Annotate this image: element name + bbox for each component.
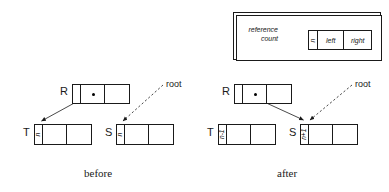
legend-node-box: n left right xyxy=(308,30,372,50)
legend-cell-reference-count: n xyxy=(309,31,318,49)
before-r-cell-count xyxy=(73,85,81,103)
after-s-cell-count: n+1 xyxy=(301,125,309,144)
before-node-r xyxy=(72,84,130,104)
before-caption: before xyxy=(84,168,112,179)
after-t-count-value: n-1 xyxy=(219,130,226,139)
before-node-label-s: S xyxy=(105,127,112,138)
before-r-cell-left xyxy=(81,85,105,103)
before-node-label-t: T xyxy=(23,127,30,138)
after-node-t: n-1 xyxy=(218,124,276,145)
legend-caption: reference count xyxy=(238,26,278,44)
after-root-label: root xyxy=(355,80,371,89)
before-t-cell-left xyxy=(43,125,67,144)
after-node-r xyxy=(234,84,292,104)
before-r-cell-right xyxy=(105,85,129,103)
before-root-label: root xyxy=(166,80,182,89)
legend-caption-line-2: count xyxy=(238,35,278,44)
before-r-pointer-dot xyxy=(92,93,95,96)
diagram-canvas: reference count n left right R root T n … xyxy=(0,0,389,192)
legend-cell-right: right xyxy=(344,31,371,49)
before-node-label-r: R xyxy=(60,86,68,97)
before-s-cell-left xyxy=(125,125,149,144)
before-s-cell-count: n xyxy=(117,125,125,144)
before-node-t: n xyxy=(34,124,92,145)
after-r-cell-count xyxy=(235,85,243,103)
after-s-cell-right xyxy=(333,125,357,144)
after-node-label-s: S xyxy=(289,127,296,138)
before-t-cell-right xyxy=(67,125,91,144)
legend-caption-line-1: reference xyxy=(238,26,278,35)
after-r-pointer-dot xyxy=(254,93,257,96)
after-t-cell-left xyxy=(227,125,251,144)
after-t-cell-count: n-1 xyxy=(219,125,227,144)
before-s-cell-right xyxy=(149,125,173,144)
before-node-s: n xyxy=(116,124,174,145)
after-node-label-t: T xyxy=(207,127,214,138)
after-r-cell-left xyxy=(243,85,267,103)
legend-cell-left: left xyxy=(318,31,345,49)
legend-count-value: n xyxy=(309,38,316,42)
after-s-cell-left xyxy=(309,125,333,144)
after-caption: after xyxy=(277,168,297,179)
before-t-cell-count: n xyxy=(35,125,43,144)
after-r-cell-right xyxy=(267,85,291,103)
after-t-cell-right xyxy=(251,125,275,144)
after-root-arrow xyxy=(310,85,352,120)
after-node-label-r: R xyxy=(222,86,230,97)
after-node-s: n+1 xyxy=(300,124,358,145)
before-s-count-value: n xyxy=(117,133,124,137)
before-t-count-value: n xyxy=(35,133,42,137)
after-s-count-value: n+1 xyxy=(301,129,308,140)
